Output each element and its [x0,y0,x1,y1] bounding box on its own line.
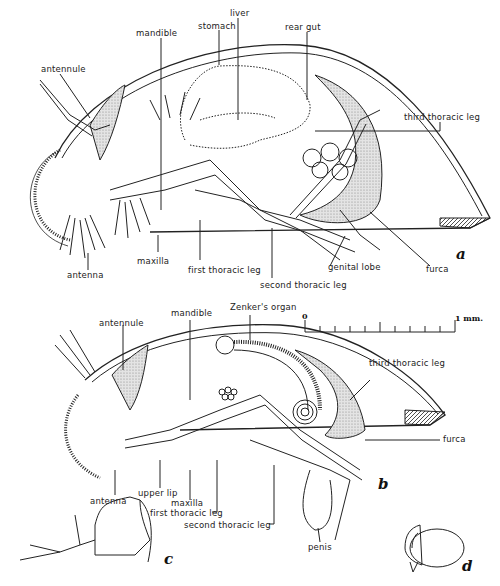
panel-letter-a: a [456,245,466,263]
panel-letter-b: b [378,475,389,493]
label-a-liver: liver [230,8,249,18]
panel-letter-c: c [164,550,173,568]
label-a-rear-gut: rear gut [285,22,321,32]
label-b-first-thoracic-leg: first thoracic leg [150,508,223,518]
scale-bar [305,320,455,332]
panel-b-drawing [55,315,445,542]
label-b-mandible: mandible [171,308,212,318]
label-a-first-thoracic-leg: first thoracic leg [188,265,261,275]
scale-bar-start: 0 [302,311,308,321]
label-b-antennule: antennule [99,318,144,328]
label-a-antenna: antenna [67,270,104,280]
label-a-maxilla: maxilla [137,256,169,266]
label-a-second-thoracic-leg: second thoracic leg [260,280,347,290]
label-a-stomach: stomach [198,21,236,31]
label-a-furca: furca [426,264,449,274]
panel-c-drawing [20,497,151,562]
label-b-second-thoracic-leg: second thoracic leg [184,520,271,530]
label-b-third-thoracic-leg: third thoracic leg [369,358,445,368]
label-a-mandible: mandible [136,28,177,38]
label-b-furca: furca [443,434,466,444]
label-a-antennule: antennule [41,64,86,74]
figure-drawing [0,0,500,586]
label-a-third-thoracic-leg: third thoracic leg [404,112,480,122]
label-b-antenna: antenna [90,496,127,506]
panel-letter-d: d [462,557,473,575]
label-a-genital-lobe: genital lobe [328,262,381,272]
label-b-upper-lip: upper lip [138,488,178,498]
panel-d-drawing [405,525,464,572]
scale-bar-end: 1 mm. [455,313,483,323]
ostracod-anatomy-figure: mandible stomach liver rear gut antennul… [0,0,500,586]
panel-a-drawing [30,18,490,278]
label-b-zenkers-organ: Zenker's organ [230,302,297,312]
label-b-penis: penis [308,542,332,552]
label-b-maxilla: maxilla [171,498,203,508]
